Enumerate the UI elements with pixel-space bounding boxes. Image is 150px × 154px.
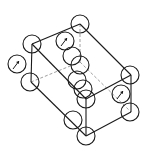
cell-edge-7 [86, 112, 131, 136]
cell-edge-1 [80, 24, 131, 75]
atom-circle-icon [64, 111, 82, 129]
cell-edge-3 [86, 75, 131, 99]
atom-circle-icon [21, 73, 39, 91]
atom-lower-left [21, 73, 39, 91]
atom-left-arrow [8, 55, 26, 73]
atom-bottom-left [64, 111, 82, 129]
atoms [8, 15, 139, 145]
hidden-edges [31, 24, 131, 112]
atom-right-arrow [112, 85, 130, 103]
cell-edge-4 [31, 44, 32, 82]
crystal-unit-cell-diagram [0, 0, 150, 154]
